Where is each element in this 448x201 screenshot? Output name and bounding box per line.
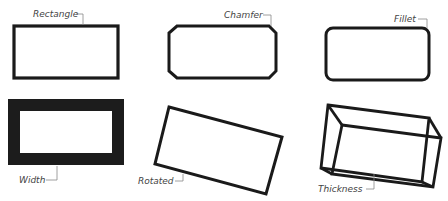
panel-fillet: Fillet xyxy=(326,14,429,80)
thick-box-shape xyxy=(321,105,441,187)
width-label: Width xyxy=(19,175,46,185)
rotated-leader-line xyxy=(175,174,183,181)
panel-chamfer: Chamfer xyxy=(169,10,276,78)
rectangle-options-diagram: Rectangle Chamfer Fillet Width Rotated xyxy=(0,0,448,201)
width-leader-line xyxy=(46,166,57,180)
rectangle-label: Rectangle xyxy=(33,9,79,19)
panel-thickness: Thickness xyxy=(318,105,441,194)
panel-rotated: Rotated xyxy=(138,107,282,194)
panel-rectangle: Rectangle xyxy=(14,9,118,78)
chamfer-label: Chamfer xyxy=(224,10,264,20)
rotated-label: Rotated xyxy=(138,176,174,186)
panel-width: Width xyxy=(8,99,124,185)
thickness-label: Thickness xyxy=(318,184,363,194)
chamfer-leader-line xyxy=(263,15,271,26)
wide-border-rectangle-shape xyxy=(8,99,124,165)
rotated-rectangle-shape xyxy=(155,107,282,194)
plain-rectangle-shape xyxy=(14,26,118,78)
fillet-label: Fillet xyxy=(394,14,416,24)
filleted-rectangle-shape xyxy=(326,28,429,80)
chamfered-rectangle-shape xyxy=(169,26,276,78)
